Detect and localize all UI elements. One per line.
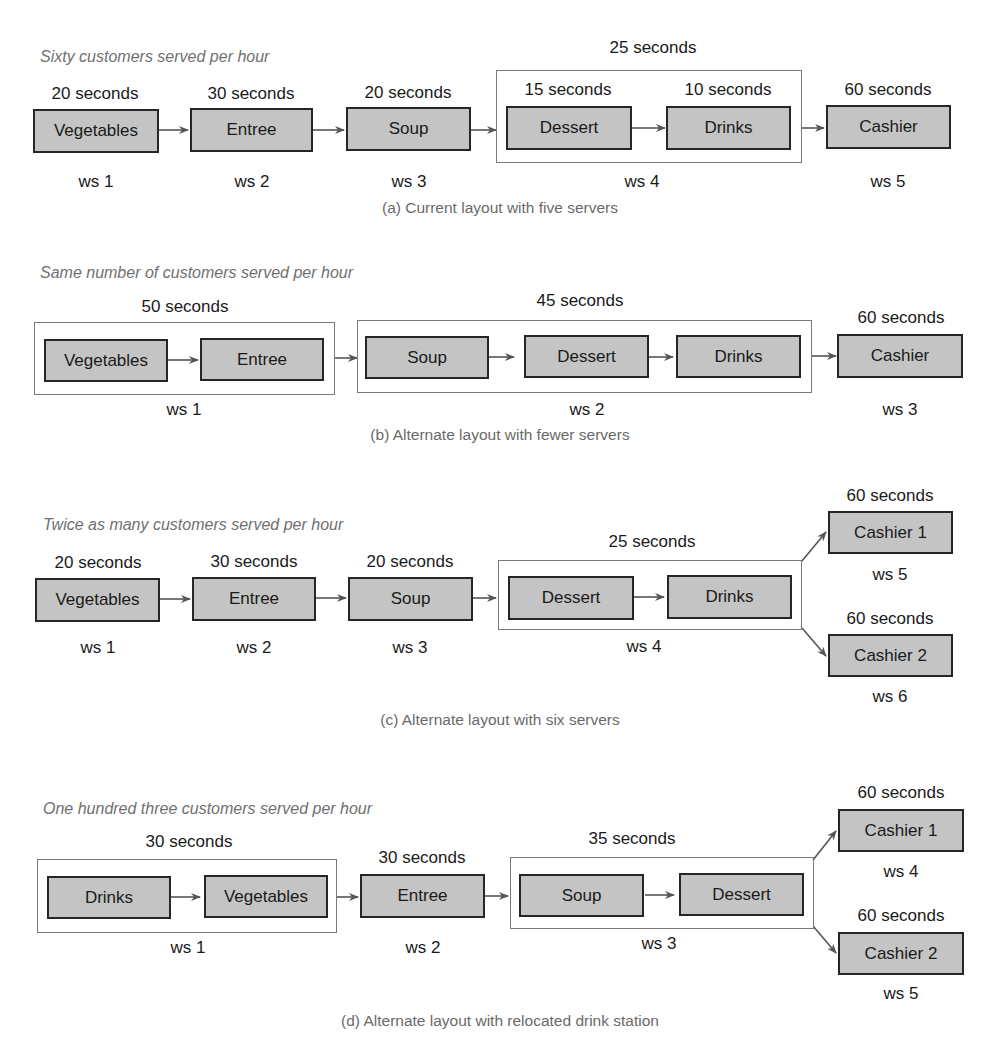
station-time: 60 seconds bbox=[836, 783, 966, 803]
station-cashier-2: Cashier 2 bbox=[828, 634, 953, 677]
workstation-label: ws 1 bbox=[138, 938, 238, 958]
workstation-label: ws 5 bbox=[851, 984, 951, 1004]
station-dessert: Dessert bbox=[524, 335, 649, 378]
station-drinks: Drinks bbox=[666, 106, 791, 150]
workstation-label: ws 3 bbox=[850, 400, 950, 420]
diagram-c-caption: (c) Alternate layout with six servers bbox=[200, 711, 800, 729]
station-time: 60 seconds bbox=[836, 308, 966, 328]
station-drinks: Drinks bbox=[47, 876, 171, 919]
station-time: 15 seconds bbox=[503, 80, 633, 100]
station-vegetables: Vegetables bbox=[204, 875, 328, 918]
diagram-b-subtitle: Same number of customers served per hour bbox=[40, 264, 353, 282]
diagram-d-caption: (d) Alternate layout with relocated drin… bbox=[200, 1012, 800, 1030]
station-time: 30 seconds bbox=[189, 552, 319, 572]
diagram-c-subtitle: Twice as many customers served per hour bbox=[43, 516, 343, 534]
station-soup: Soup bbox=[348, 577, 473, 621]
station-cashier-1: Cashier 1 bbox=[828, 511, 953, 554]
station-drinks: Drinks bbox=[667, 575, 792, 619]
station-entree: Entree bbox=[192, 577, 316, 621]
workstation-label: ws 5 bbox=[838, 172, 938, 192]
station-time: 30 seconds bbox=[186, 84, 316, 104]
station-drinks: Drinks bbox=[676, 335, 801, 378]
station-vegetables: Vegetables bbox=[33, 109, 159, 153]
workstation-label: ws 5 bbox=[840, 565, 940, 585]
workstation-label: ws 2 bbox=[537, 400, 637, 420]
station-dessert: Dessert bbox=[508, 576, 634, 620]
workstation-label: ws 1 bbox=[48, 638, 148, 658]
diagram-d-subtitle: One hundred three customers served per h… bbox=[43, 800, 372, 818]
workstation-label: ws 3 bbox=[359, 172, 459, 192]
workstation-label: ws 1 bbox=[46, 172, 146, 192]
workstation-label: ws 3 bbox=[609, 934, 709, 954]
diagram-a-subtitle: Sixty customers served per hour bbox=[40, 48, 269, 66]
workstation-label: ws 2 bbox=[204, 638, 304, 658]
station-time: 10 seconds bbox=[663, 80, 793, 100]
station-vegetables: Vegetables bbox=[35, 578, 160, 622]
workstation-label: ws 1 bbox=[134, 400, 234, 420]
station-time: 20 seconds bbox=[33, 553, 163, 573]
station-entree: Entree bbox=[190, 108, 313, 152]
station-time: 60 seconds bbox=[823, 80, 953, 100]
workstation-label: ws 2 bbox=[202, 172, 302, 192]
station-dessert: Dessert bbox=[679, 873, 804, 916]
station-time: 20 seconds bbox=[345, 552, 475, 572]
group-time: 25 seconds bbox=[588, 38, 718, 58]
station-entree: Entree bbox=[200, 338, 324, 381]
station-cashier: Cashier bbox=[826, 105, 951, 149]
group-time: 25 seconds bbox=[587, 532, 717, 552]
group-time: 30 seconds bbox=[124, 832, 254, 852]
station-time: 60 seconds bbox=[825, 609, 955, 629]
diagram-b-caption: (b) Alternate layout with fewer servers bbox=[200, 426, 800, 444]
station-soup: Soup bbox=[519, 874, 644, 917]
workstation-label: ws 4 bbox=[592, 172, 692, 192]
station-cashier: Cashier bbox=[837, 334, 963, 378]
station-soup: Soup bbox=[365, 336, 489, 379]
diagram-a-caption: (a) Current layout with five servers bbox=[200, 199, 800, 217]
station-time: 60 seconds bbox=[825, 486, 955, 506]
station-entree: Entree bbox=[360, 874, 485, 918]
group-time: 50 seconds bbox=[120, 297, 250, 317]
station-time: 60 seconds bbox=[836, 906, 966, 926]
workstation-label: ws 4 bbox=[851, 862, 951, 882]
group-time: 45 seconds bbox=[515, 291, 645, 311]
workstation-label: ws 6 bbox=[840, 687, 940, 707]
workstation-label: ws 2 bbox=[373, 938, 473, 958]
station-soup: Soup bbox=[346, 107, 471, 151]
station-time: 20 seconds bbox=[30, 84, 160, 104]
station-vegetables: Vegetables bbox=[44, 339, 168, 382]
station-cashier-2: Cashier 2 bbox=[838, 932, 964, 975]
station-time: 20 seconds bbox=[343, 83, 473, 103]
group-time: 35 seconds bbox=[567, 829, 697, 849]
station-dessert: Dessert bbox=[506, 106, 632, 150]
workstation-label: ws 3 bbox=[360, 638, 460, 658]
workstation-label: ws 4 bbox=[594, 637, 694, 657]
station-time: 30 seconds bbox=[357, 848, 487, 868]
station-cashier-1: Cashier 1 bbox=[838, 809, 964, 852]
